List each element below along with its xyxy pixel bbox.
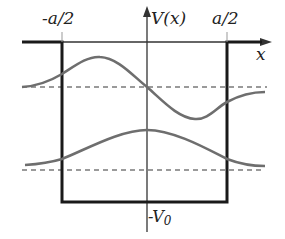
label-depth-main: -V bbox=[148, 207, 165, 226]
potential-well bbox=[22, 42, 262, 202]
label-left-edge: -a/2 bbox=[42, 8, 74, 28]
label-y-axis: V(x) bbox=[151, 8, 186, 28]
label-depth-sub: 0 bbox=[164, 214, 172, 228]
label-depth: -V0 bbox=[148, 207, 172, 228]
label-right-edge: a/2 bbox=[212, 8, 239, 28]
label-x-axis: x bbox=[256, 44, 266, 64]
y-axis-arrow-icon bbox=[143, 6, 151, 17]
potential-well-diagram: -a/2 a/2 V(x) x -V0 bbox=[0, 0, 285, 239]
